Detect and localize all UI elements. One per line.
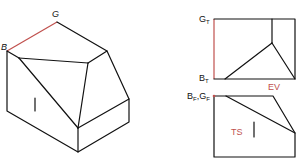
- label-ev: EV: [268, 82, 280, 92]
- edge: [19, 58, 78, 128]
- label-g: G: [52, 9, 59, 19]
- edge: [272, 43, 295, 79]
- label-ts: TS: [231, 127, 243, 137]
- edge: [78, 99, 129, 128]
- edge: [225, 43, 272, 79]
- label-b: B: [1, 42, 7, 52]
- label-bt: BT: [199, 73, 209, 84]
- outline: [7, 22, 129, 152]
- label-bf-gf: BF,GF: [187, 91, 210, 102]
- top-view: GT BT EV: [199, 14, 295, 92]
- front-view: BF,GF TS: [187, 91, 295, 157]
- pictorial-view: G B: [1, 9, 129, 152]
- edge: [7, 51, 19, 58]
- edge: [78, 63, 88, 128]
- edge: [19, 58, 88, 63]
- label-gt: GT: [199, 14, 210, 25]
- descriptive-geometry-diagram: G B GT BT EV BF,GF TS: [0, 0, 299, 162]
- top-view-outline: [214, 19, 295, 79]
- edge-bg-true-length: [7, 22, 57, 51]
- edge: [88, 51, 107, 63]
- point-bf-gf: [213, 95, 216, 98]
